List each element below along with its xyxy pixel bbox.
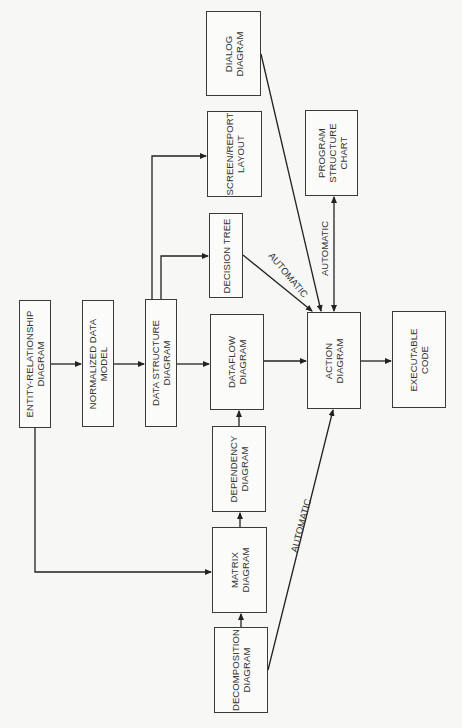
node-dataflow-diagram: DATAFLOWDIAGRAM	[210, 314, 264, 410]
node-matrix-diagram: MATRIXDIAGRAM	[212, 527, 267, 613]
node-action-diagram: ACTIONDIAGRAM	[307, 312, 361, 409]
node-decomposition-diagram: DECOMPOSITIONDIAGRAM	[214, 627, 268, 713]
diagram-canvas: AUTOMATIC AUTOMATIC AUTOMATIC ENTITY-REL…	[0, 0, 462, 728]
edge-er-mx	[35, 428, 211, 572]
node-executable-code: EXECUTABLECODE	[392, 311, 446, 408]
node-data-structure-diagram: DATA STRUCTUREDIAGRAM	[145, 299, 177, 427]
edge-label-dec-act: AUTOMATIC	[288, 497, 313, 553]
node-dependency-diagram: DEPENDENCYDIAGRAM	[212, 426, 266, 512]
edge-label-act-psc: AUTOMATIC	[319, 221, 330, 276]
node-entity-relationship-diagram: ENTITY-RELATIONSHIPDIAGRAM	[19, 300, 51, 428]
edge-ds-sr	[152, 156, 206, 299]
node-dialog-diagram: DIALOGDIAGRAM	[206, 11, 261, 96]
node-screen-report-layout: SCREEN/REPORTLAYOUT	[207, 111, 262, 197]
node-normalized-data-model: NORMALIZED DATAMODEL	[82, 300, 114, 427]
node-decision-tree: DECISION TREE	[209, 213, 243, 298]
edge-ds-dt	[161, 256, 208, 299]
node-program-structure-chart: PROGRAMSTRUCTURECHART	[305, 110, 358, 196]
